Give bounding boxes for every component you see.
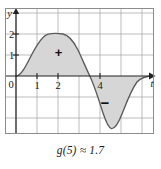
y-axis-label: y: [6, 8, 12, 19]
figure-container: y t 0 2 1 1 2 4 + − g(5) ≈ 1.7: [0, 0, 161, 169]
x-tick-label-4: 4: [97, 80, 103, 91]
x-tick-label-2: 2: [55, 80, 60, 91]
negative-region-sign: −: [101, 94, 110, 111]
figure-caption: g(5) ≈ 1.7: [0, 144, 161, 156]
positive-region-sign: +: [55, 45, 63, 60]
origin-label: 0: [8, 79, 13, 90]
y-tick-label-2: 2: [9, 29, 14, 40]
y-tick-label-1: 1: [9, 50, 14, 61]
x-tick-label-1: 1: [34, 80, 39, 91]
